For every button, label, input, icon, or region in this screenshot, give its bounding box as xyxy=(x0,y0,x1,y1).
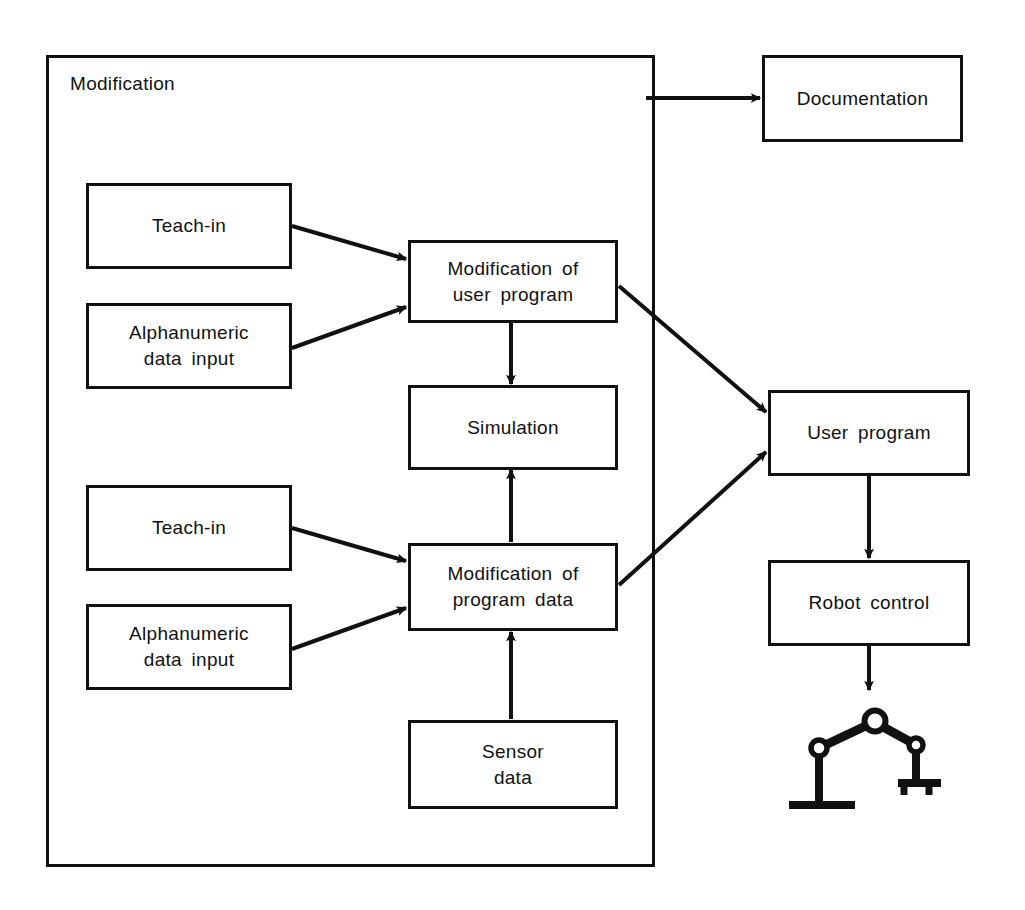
flow-diagram: Modification xyxy=(0,0,1025,910)
box-label: Teach-in xyxy=(146,213,232,239)
box-label: Simulation xyxy=(461,415,565,441)
edge-teachin-bottom-to-modification-program-data xyxy=(292,528,406,561)
box-label: Documentation xyxy=(791,86,935,112)
box-label: Alphanumeric data input xyxy=(123,621,255,673)
box-alphanumeric-data-input-top[interactable]: Alphanumeric data input xyxy=(86,303,292,389)
box-teach-in-bottom[interactable]: Teach-in xyxy=(86,485,292,571)
robot-joint-left xyxy=(811,740,827,756)
box-label: Alphanumeric data input xyxy=(123,320,255,372)
box-label: Modification of user program xyxy=(441,256,584,308)
box-sensor-data[interactable]: Sensor data xyxy=(408,720,618,809)
box-label: User program xyxy=(801,420,937,446)
box-alphanumeric-data-input-bottom[interactable]: Alphanumeric data input xyxy=(86,604,292,690)
box-robot-control[interactable]: Robot control xyxy=(768,560,970,646)
robot-joint-right xyxy=(909,738,923,752)
edge-alphanumeric-top-to-modification-user-program xyxy=(292,307,406,348)
box-label: Modification of program data xyxy=(441,561,584,613)
edge-modification-program-data-to-user-program xyxy=(619,452,766,585)
box-label: Robot control xyxy=(803,590,936,616)
edge-alphanumeric-bottom-to-modification-program-data xyxy=(292,608,406,649)
box-label: Teach-in xyxy=(146,515,232,541)
box-simulation[interactable]: Simulation xyxy=(408,385,618,470)
box-modification-of-user-program[interactable]: Modification of user program xyxy=(408,240,618,323)
edge-modification-user-program-to-user-program xyxy=(619,286,766,412)
box-teach-in-top[interactable]: Teach-in xyxy=(86,183,292,269)
edge-teachin-top-to-modification-user-program xyxy=(292,226,406,259)
robot-joint-apex xyxy=(865,711,886,732)
box-user-program[interactable]: User program xyxy=(768,390,970,476)
robot-arm-icon xyxy=(775,700,955,820)
box-label: Sensor data xyxy=(476,739,550,791)
box-documentation[interactable]: Documentation xyxy=(762,55,963,142)
box-modification-of-program-data[interactable]: Modification of program data xyxy=(408,543,618,631)
